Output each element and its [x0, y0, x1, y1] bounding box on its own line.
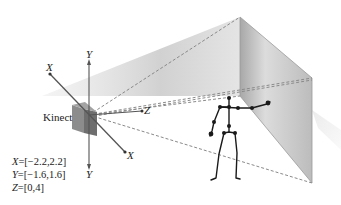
y-axis-label-top: Y — [86, 49, 92, 60]
y-axis-label-bottom: Y — [86, 169, 92, 180]
x-axis-label-bottom: X — [127, 150, 134, 161]
kinect-coordinate-diagram: X X Y Y Z Kinect X=[−2.2,2.2] Y=[−1.6,1.… — [0, 0, 341, 205]
range-z: Z=[0,4] — [12, 183, 44, 194]
panel-shadow — [312, 110, 341, 150]
kinect-label: Kinect — [43, 112, 72, 123]
x-axis-label-top: X — [46, 62, 53, 73]
z-axis-label: Z — [144, 105, 150, 116]
far-plane-panel — [240, 17, 312, 183]
range-y: Y=[−1.6,1.6] — [12, 170, 66, 181]
frustum-top-face — [42, 17, 240, 96]
range-x: X=[−2.2,2.2] — [12, 157, 66, 168]
